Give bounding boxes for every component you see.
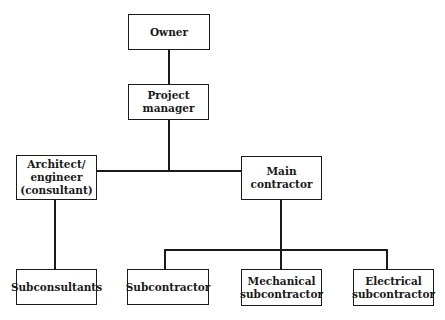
org-chart-diagram: Owner Project manager Architect/ enginee… [0, 0, 445, 320]
connector-subcontractors-horizontal [164, 249, 388, 251]
node-subcontractor: Subcontractor [127, 269, 209, 305]
node-architect-engineer-label: Architect/ engineer (consultant) [20, 158, 93, 197]
connector-pm-horizontal [96, 170, 241, 172]
node-subconsultants: Subconsultants [16, 269, 97, 305]
node-owner: Owner [128, 14, 210, 50]
node-subcontractor-label: Subcontractor [126, 281, 211, 294]
node-subconsultants-label: Subconsultants [11, 281, 102, 294]
connector-architect-subconsultants [54, 199, 56, 269]
node-mechanical-subcontractor-label: Mechanical subcontractor [240, 275, 323, 301]
connector-main-trunk [280, 199, 282, 269]
node-main-contractor: Main contractor [241, 156, 322, 200]
node-owner-label: Owner [150, 26, 188, 39]
node-architect-engineer: Architect/ engineer (consultant) [16, 155, 97, 200]
node-main-contractor-label: Main contractor [244, 165, 319, 191]
node-project-manager: Project manager [128, 84, 209, 120]
node-electrical-subcontractor: Electrical subcontractor [353, 269, 434, 306]
connector-owner-pm [168, 49, 170, 84]
connector-to-electrical [386, 249, 388, 269]
connector-to-subcontractor [164, 249, 166, 269]
node-electrical-subcontractor-label: Electrical subcontractor [352, 275, 435, 301]
connector-pm-trunk [168, 119, 170, 171]
node-project-manager-label: Project manager [131, 89, 206, 115]
node-mechanical-subcontractor: Mechanical subcontractor [241, 269, 322, 306]
